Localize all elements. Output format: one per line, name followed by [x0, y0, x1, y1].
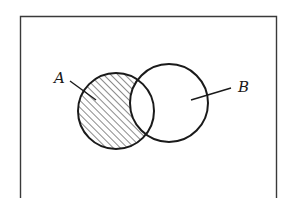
venn-diagram-canvas: [0, 0, 293, 198]
set-b-label: B: [238, 80, 249, 95]
set-b-leader-line: [191, 88, 231, 100]
set-a-label: A: [54, 71, 65, 86]
shaded-region-a-minus-b: [0, 0, 293, 198]
